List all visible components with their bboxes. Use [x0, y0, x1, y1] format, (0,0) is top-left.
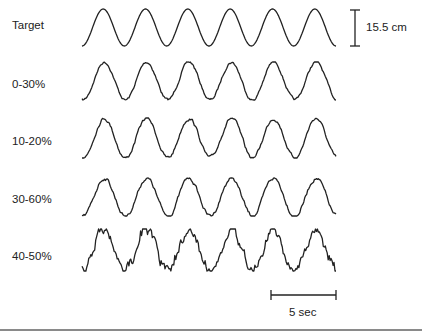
trace-10-20- [82, 118, 336, 158]
time-scale-label: 5 sec [289, 306, 317, 318]
trace-40-50- [82, 229, 336, 271]
amplitude-scale-label: 15.5 cm [366, 21, 407, 33]
time-scale-bar [271, 290, 336, 300]
trace-group [82, 9, 336, 271]
row-label-10-20: 10-20% [12, 135, 52, 147]
trace-target [82, 9, 336, 46]
row-label-0-30: 0-30% [12, 78, 45, 90]
row-label-target: Target [12, 19, 44, 31]
amplitude-scale-bar [350, 10, 360, 46]
row-label-40-50: 40-50% [12, 250, 52, 262]
row-label-30-60: 30-60% [12, 193, 52, 205]
traces-plot [0, 0, 422, 335]
bottom-rule [0, 329, 422, 331]
trace-30-60- [82, 178, 336, 216]
trace-0-30- [82, 62, 336, 100]
